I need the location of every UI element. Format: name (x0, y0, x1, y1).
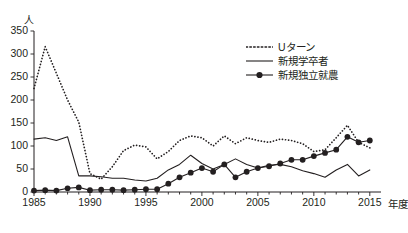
series-line-1 (34, 137, 370, 181)
legend-item-new-independent-farmers: 新規独立就農 (246, 68, 338, 82)
legend-label-new-graduates: 新規学卒者 (278, 54, 328, 68)
legend-label-uturn: Uターン (278, 40, 315, 54)
solid-line-icon (246, 55, 273, 67)
legend-label-new-independent-farmers: 新規独立就農 (278, 68, 338, 82)
dotted-line-icon (246, 41, 273, 53)
legend: Uターン 新規学卒者 新規独立就農 (246, 40, 338, 82)
solid-line-with-marker-icon (246, 69, 273, 81)
legend-item-new-graduates: 新規学卒者 (246, 54, 338, 68)
legend-item-uturn: Uターン (246, 40, 338, 54)
x-axis-unit-label: 年度 (388, 196, 408, 211)
